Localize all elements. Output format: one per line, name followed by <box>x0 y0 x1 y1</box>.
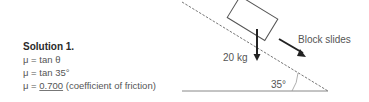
incline-diagram: 20 kg Block slides 35° <box>0 0 369 102</box>
angle-label: 35° <box>271 79 286 90</box>
mass-label: 20 kg <box>223 52 247 63</box>
motion-label: Block slides <box>298 34 351 45</box>
angle-arc <box>292 73 298 91</box>
weight-arrow-head <box>254 54 261 61</box>
